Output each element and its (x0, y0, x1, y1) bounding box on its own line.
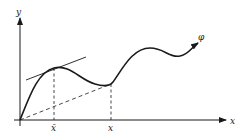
x-tick-label: x (108, 123, 113, 133)
x-axis-label: x (230, 116, 235, 126)
x-bar-tick-label: x̄ (51, 123, 56, 133)
curve-phi-label: φ (198, 32, 205, 42)
curve-phi (20, 43, 198, 120)
diagram-canvas: y x φ x̄ x (0, 0, 238, 135)
diagram-svg: y x φ x̄ x (0, 0, 238, 135)
y-axis-label: y (15, 7, 22, 17)
tangent-line (26, 57, 86, 80)
